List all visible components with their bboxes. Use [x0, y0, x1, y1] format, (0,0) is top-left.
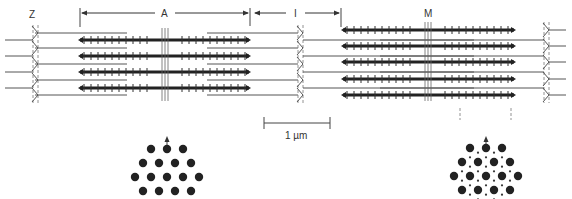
thick-filament-dot: [490, 158, 498, 166]
filament-tip: [511, 59, 516, 65]
thick-filament-dot: [179, 145, 187, 153]
thick-filament-dot: [482, 144, 490, 152]
i-band-label: I: [294, 8, 297, 19]
thin-filament-dot: [477, 152, 479, 154]
filament-tip: [341, 59, 346, 65]
thin-filament-dot: [493, 180, 495, 182]
thick-filament-dot: [139, 159, 147, 167]
thick-filament-dot: [163, 145, 171, 153]
filament-tip: [341, 43, 346, 49]
thin-filament-dot: [509, 180, 511, 182]
thick-filament-dot: [147, 145, 155, 153]
thick-filament-dot: [171, 159, 179, 167]
thin-filament-dot: [501, 156, 503, 158]
thick-filament-dot: [466, 144, 474, 152]
thin-filament-dot: [469, 184, 471, 186]
thin-filament-dot: [485, 194, 487, 196]
thick-filament-dot: [474, 186, 482, 194]
thick-filament-dot: [482, 172, 490, 180]
thin-filament-dot: [501, 184, 503, 186]
thick-filament-dot: [490, 186, 498, 194]
filament-tip: [511, 27, 516, 33]
filament-tip: [78, 53, 83, 59]
filament-tip: [511, 43, 516, 49]
thick-filament-dot: [474, 158, 482, 166]
thick-filament-dot: [514, 172, 522, 180]
thick-filament-dot: [155, 159, 163, 167]
thin-filament-dot: [477, 198, 479, 199]
thin-filament-dot: [469, 194, 471, 196]
filament-tip: [246, 69, 251, 75]
z-disc-chevron: [543, 39, 549, 53]
z-line-label: Z: [29, 9, 35, 20]
thick-filament-dot: [155, 187, 163, 195]
filament-tip: [246, 85, 251, 91]
thin-filament-dot: [509, 170, 511, 172]
filament-tip: [511, 92, 516, 98]
thin-filament-dot: [477, 180, 479, 182]
thin-filament-dot: [493, 198, 495, 199]
sarcomere-diagram: Z A I M 1 µm: [0, 0, 572, 199]
thick-filament-dot: [147, 173, 155, 181]
thick-filament-dot: [450, 172, 458, 180]
thin-filament-dot: [485, 166, 487, 168]
thick-filament-dot: [498, 144, 506, 152]
thick-filament-dot: [458, 186, 466, 194]
thick-filament-dot: [187, 159, 195, 167]
a-band-label: A: [161, 8, 168, 19]
arrowhead: [81, 11, 87, 16]
filament-tip: [78, 85, 83, 91]
thick-filament-dot: [139, 187, 147, 195]
thick-filament-dot: [506, 186, 514, 194]
thick-filament-dot: [506, 158, 514, 166]
thick-filament-dot: [498, 172, 506, 180]
filament-tip: [246, 37, 251, 43]
filament-tip: [246, 53, 251, 59]
arrowhead: [165, 136, 170, 142]
filament-tip: [78, 69, 83, 75]
thick-filament-dot: [466, 172, 474, 180]
filament-layer: [5, 8, 566, 199]
thin-filament-dot: [493, 152, 495, 154]
arrowhead: [484, 136, 489, 142]
thick-filament-dot: [171, 187, 179, 195]
thin-filament-dot: [501, 166, 503, 168]
thick-filament-dot: [458, 158, 466, 166]
arrowhead: [334, 11, 340, 16]
filament-tip: [341, 92, 346, 98]
thin-filament-dot: [477, 170, 479, 172]
thick-filament-dot: [179, 173, 187, 181]
filament-tip: [78, 37, 83, 43]
thin-filament-dot: [461, 180, 463, 182]
thick-filament-dot: [131, 173, 139, 181]
thick-filament-dot: [187, 187, 195, 195]
scale-bar-label: 1 µm: [285, 130, 307, 141]
thin-filament-dot: [469, 166, 471, 168]
diagram-canvas: Z A I M 1 µm: [0, 0, 572, 199]
filament-tip: [341, 76, 346, 82]
thin-filament-dot: [469, 156, 471, 158]
thin-filament-dot: [485, 184, 487, 186]
filament-tip: [341, 27, 346, 33]
thin-filament-dot: [501, 194, 503, 196]
thick-filament-dot: [163, 173, 171, 181]
filament-tip: [511, 76, 516, 82]
thick-filament-dot: [195, 173, 203, 181]
m-line-label: M: [424, 8, 432, 19]
thin-filament-dot: [485, 156, 487, 158]
thin-filament-dot: [461, 170, 463, 172]
arrowhead: [243, 11, 249, 16]
thin-filament-dot: [493, 170, 495, 172]
arrowhead: [254, 11, 260, 16]
